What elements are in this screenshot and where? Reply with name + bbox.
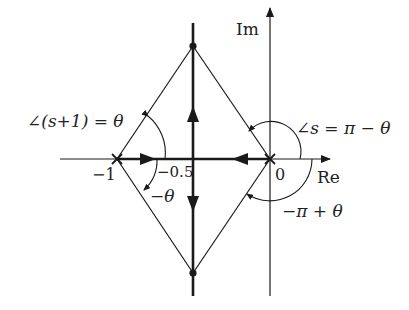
angle-label-minus-pi-plus-theta: −π + θ (282, 201, 343, 221)
angle-label-minus-theta: −θ (150, 186, 174, 206)
tick-label-minus-half: −0.5 (157, 163, 193, 181)
tick-label-minus-one: −1 (92, 165, 116, 184)
root-locus-diagram: Im Re −1 −0.5 0 ∠(s+1) = θ −θ ∠s = π − θ… (0, 0, 409, 310)
locus-arrow-up-icon (187, 106, 199, 122)
angle-label-s: ∠s = π − θ (296, 118, 390, 138)
tick-label-zero: 0 (275, 165, 285, 184)
angle-label-s-plus-one: ∠(s+1) = θ (27, 111, 124, 131)
real-axis-label: Re (317, 167, 340, 187)
locus-arrow-left-icon (232, 153, 248, 165)
imag-axis-label: Im (236, 19, 259, 39)
locus-arrow-right-icon (140, 153, 156, 165)
locus-arrow-down-icon (187, 196, 199, 212)
